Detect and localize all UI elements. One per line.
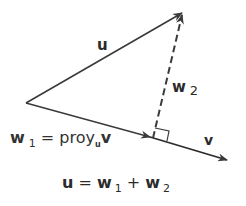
eq-w1: w xyxy=(97,173,112,192)
eq-equals: = xyxy=(73,173,97,192)
vector-u xyxy=(26,13,182,103)
label-v: v xyxy=(204,133,213,147)
label-w1-sub: 1 xyxy=(29,137,36,150)
vector-v xyxy=(150,137,227,160)
projection-diagram: u w2 v w1 = proyuv u = w1 + w2 xyxy=(0,0,246,206)
label-w1-main: w xyxy=(10,128,25,147)
label-w2-main: w xyxy=(172,78,186,96)
label-w1-v: v xyxy=(101,128,111,147)
vector-w2 xyxy=(153,15,182,138)
eq-plus: + xyxy=(122,173,146,192)
label-u: u xyxy=(97,38,108,53)
label-w1-proj: w1 = proyuv xyxy=(10,130,111,146)
eq-sub2: 2 xyxy=(163,182,170,195)
eq-w2: w xyxy=(145,173,160,192)
equation: u = w1 + w2 xyxy=(62,175,170,191)
label-proj-sub: u xyxy=(95,140,101,149)
eq-u: u xyxy=(62,173,73,192)
label-w2: w2 xyxy=(172,80,198,95)
label-w2-sub: 2 xyxy=(190,83,198,98)
eq-sub1: 1 xyxy=(115,182,122,195)
label-proy: = proy xyxy=(36,128,95,147)
